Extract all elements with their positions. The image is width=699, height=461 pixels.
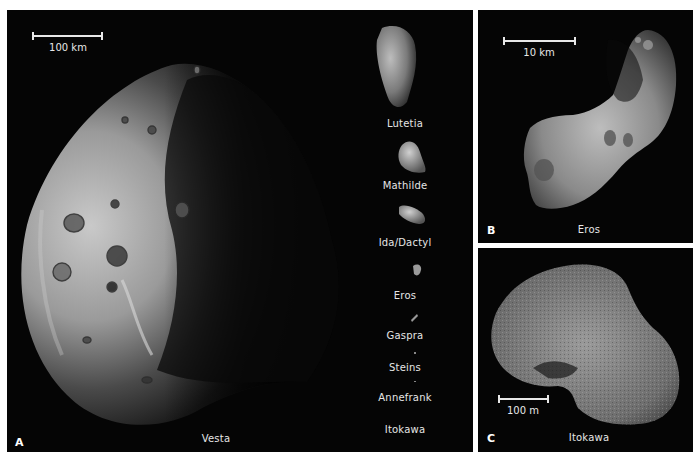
- caption-eros: Eros: [578, 224, 600, 235]
- label-eros: Eros: [394, 290, 416, 301]
- label-lutetia: Lutetia: [387, 118, 423, 129]
- panel-c-itokawa: 100 m C Itokawa: [478, 248, 693, 452]
- gaspra-thumb: [411, 314, 418, 322]
- vesta-image: [7, 10, 473, 452]
- mathilde-thumb: [398, 141, 425, 172]
- panel-letter-c: C: [487, 432, 495, 445]
- label-annefrank: Annefrank: [378, 392, 431, 403]
- caption-vesta: Vesta: [202, 433, 230, 444]
- panel-b-eros: 10 km B Eros: [478, 10, 693, 243]
- panel-letter-a: A: [15, 436, 24, 449]
- caption-itokawa: Itokawa: [569, 432, 609, 443]
- itokawa-image: [478, 248, 693, 452]
- annefrank-thumb: [414, 381, 416, 382]
- label-mathilde: Mathilde: [383, 180, 428, 191]
- lutetia-thumb: [377, 26, 417, 107]
- eros-image: [478, 10, 693, 243]
- ida-thumb: [399, 206, 425, 224]
- scale-bar-label: 10 km: [523, 47, 554, 58]
- scale-bar-label: 100 km: [49, 42, 87, 53]
- panel-a-vesta: 100 km Lutetia Mathilde Ida/Dactyl Eros …: [7, 10, 473, 452]
- label-itokawa: Itokawa: [385, 424, 425, 435]
- scale-bar-label: 100 m: [507, 405, 539, 416]
- label-gaspra: Gaspra: [387, 330, 424, 341]
- steins-thumb: [414, 352, 416, 354]
- label-steins: Steins: [389, 362, 421, 373]
- eros-thumb: [413, 265, 421, 276]
- label-ida-dactyl: Ida/Dactyl: [379, 237, 432, 248]
- panel-letter-b: B: [487, 224, 495, 237]
